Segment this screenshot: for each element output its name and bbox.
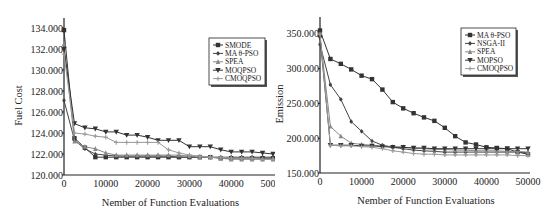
data-point-marker	[391, 149, 395, 153]
fuel-cost-chart: 120.000122.000124.000126.000128.000130.0…	[0, 0, 275, 219]
data-point-marker	[62, 28, 66, 32]
data-point-marker	[474, 153, 478, 157]
data-point-marker	[177, 151, 181, 155]
data-point-marker	[216, 43, 220, 47]
y-tick-label: 130.000	[31, 65, 64, 76]
y-tick-label: 134.000	[31, 23, 64, 34]
data-point-marker	[93, 134, 97, 138]
data-point-marker	[104, 135, 108, 139]
x-tick-label: 50000	[516, 176, 541, 187]
data-point-marker	[411, 111, 415, 115]
y-tick-label: 122.000	[31, 149, 64, 160]
fuel-cost-plot: 120.000122.000124.000126.000128.000130.0…	[0, 0, 275, 219]
y-tick-label: 128.000	[31, 86, 64, 97]
data-point-marker	[463, 153, 467, 157]
data-point-marker	[443, 126, 447, 130]
data-point-marker	[453, 134, 457, 138]
x-tick-label: 20000	[135, 178, 160, 189]
data-point-marker	[432, 119, 436, 123]
y-tick-label: 124.000	[31, 128, 64, 139]
legend-label: CMOQPSO	[225, 74, 262, 83]
x-tick-label: 40000	[219, 178, 244, 189]
data-point-marker	[401, 150, 405, 154]
data-point-marker	[474, 142, 478, 146]
y-tick-label: 200.000	[287, 133, 320, 144]
y-axis-label: Fuel Cost	[13, 85, 24, 126]
data-point-marker	[359, 73, 363, 77]
data-point-marker	[391, 100, 395, 104]
data-point-marker	[463, 140, 467, 144]
emission-chart: 150.000200.000250.000300.000350.00001000…	[275, 0, 550, 219]
y-tick-label: 126.000	[31, 107, 64, 118]
y-tick-label: 350.000	[287, 28, 320, 39]
data-point-marker	[145, 140, 149, 144]
x-tick-label: 50000	[261, 178, 276, 189]
legend-label: CMOQPSO	[477, 64, 514, 73]
x-tick-label: 20000	[391, 176, 416, 187]
y-tick-label: 150.000	[287, 168, 320, 179]
y-tick-label: 250.000	[287, 98, 320, 109]
x-tick-label: 40000	[474, 176, 499, 187]
data-point-marker	[468, 33, 472, 37]
emission-plot: 150.000200.000250.000300.000350.00001000…	[275, 0, 550, 219]
x-tick-label: 10000	[93, 178, 118, 189]
data-point-marker	[432, 152, 436, 156]
legend: SMODEMA θ-PSOSPEAMOQPSOCMOQPSO	[209, 38, 267, 87]
data-point-marker	[484, 153, 488, 157]
data-point-marker	[83, 132, 87, 136]
y-tick-label: 300.000	[287, 63, 320, 74]
data-point-marker	[411, 151, 415, 155]
x-axis-label: Nember of Function Evaluations	[357, 195, 494, 206]
data-point-marker	[114, 140, 118, 144]
data-point-marker	[380, 87, 384, 91]
y-tick-label: 120.000	[31, 170, 64, 181]
x-tick-label: 10000	[349, 176, 374, 187]
data-point-marker	[401, 106, 405, 110]
data-point-marker	[495, 153, 499, 157]
data-point-marker	[453, 153, 457, 157]
x-tick-label: 30000	[432, 176, 457, 187]
x-tick-label: 0	[318, 176, 323, 187]
data-point-marker	[339, 62, 343, 66]
data-point-marker	[349, 67, 353, 71]
x-tick-label: 30000	[177, 178, 202, 189]
data-point-marker	[443, 153, 447, 157]
x-axis-label: Nember of Function Evaluations	[102, 197, 239, 208]
data-point-marker	[62, 98, 65, 102]
data-point-marker	[422, 115, 426, 119]
x-tick-label: 0	[62, 178, 67, 189]
data-point-marker	[328, 57, 332, 61]
data-point-marker	[135, 140, 139, 144]
data-point-marker	[370, 77, 374, 81]
y-tick-label: 132.000	[31, 44, 64, 55]
data-point-marker	[422, 152, 426, 156]
data-point-marker	[125, 140, 129, 144]
legend: MA θ-PSONSGA-IISPEAMOPSOCMOQPSO	[461, 28, 518, 77]
y-axis-label: Emission	[275, 84, 285, 124]
